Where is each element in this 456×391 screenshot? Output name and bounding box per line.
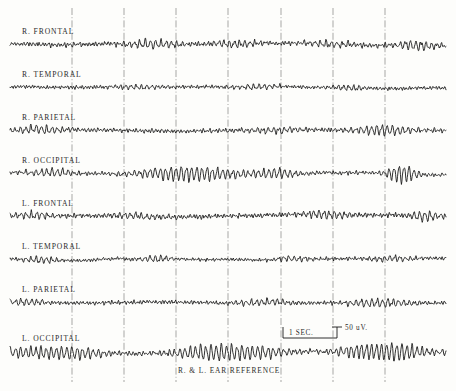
calibration-time-label: 1 SEC.	[289, 329, 314, 337]
calibration-amplitude-bar	[332, 327, 342, 338]
channel-label-r-temporal: R. TEMPORAL	[22, 70, 82, 79]
channel-label-l-occipital: L. OCCIPITAL	[22, 334, 80, 343]
channel-label-l-parietal: L. PARIETAL	[22, 285, 76, 294]
channel-label-r-frontal: R. FRONTAL	[22, 27, 74, 36]
gridline-group	[72, 8, 385, 382]
channel-label-l-frontal: L. FRONTAL	[22, 199, 74, 208]
channel-label-r-occipital: R. OCCIPITAL	[22, 156, 81, 165]
channel-label-r-parietal: R. PARIETAL	[22, 113, 76, 122]
eeg-recording-figure: R. FRONTALR. TEMPORALR. PARIETALR. OCCIP…	[0, 0, 456, 391]
montage-reference-caption: R. & L. EAR REFERENCE	[178, 366, 280, 375]
calibration-amplitude-label: 50 uV.	[345, 324, 368, 332]
channel-label-l-temporal: L. TEMPORAL	[22, 242, 81, 251]
eeg-plot-canvas	[0, 0, 456, 391]
